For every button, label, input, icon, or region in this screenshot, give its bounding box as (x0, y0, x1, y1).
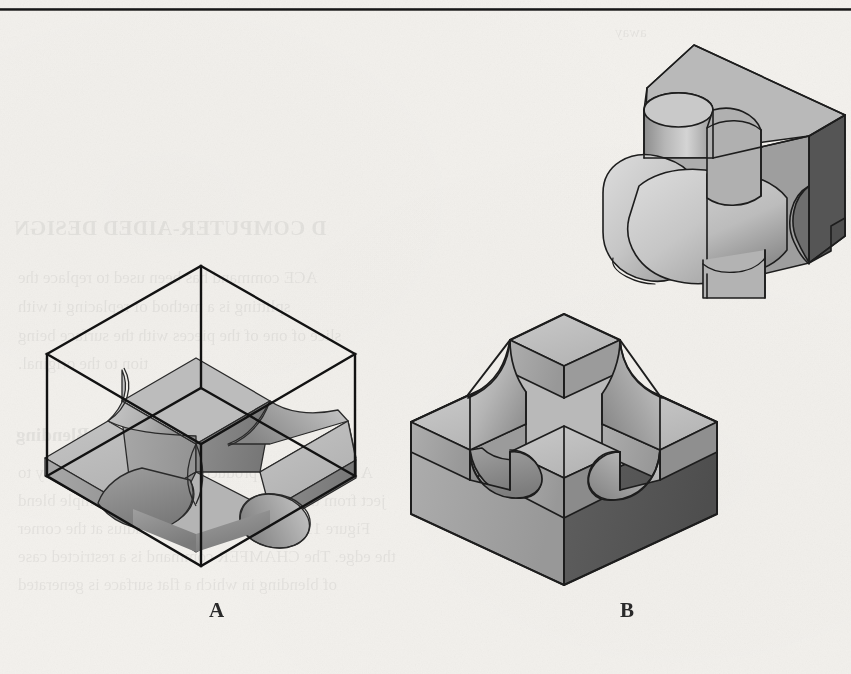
page-canvas: D COMPUTER-AIDED DESIGNACE command has b… (0, 0, 851, 674)
label-a: A (209, 598, 224, 623)
page-top-rule (0, 8, 851, 11)
object-a (38, 258, 368, 578)
object-b (404, 300, 724, 585)
ghost-text-line: D COMPUTER-AIDED DESIGN (14, 216, 327, 241)
ghost-text-line: of blending in which a flat surface is g… (18, 575, 337, 595)
object-top-right (595, 18, 851, 298)
label-b: B (620, 598, 634, 623)
